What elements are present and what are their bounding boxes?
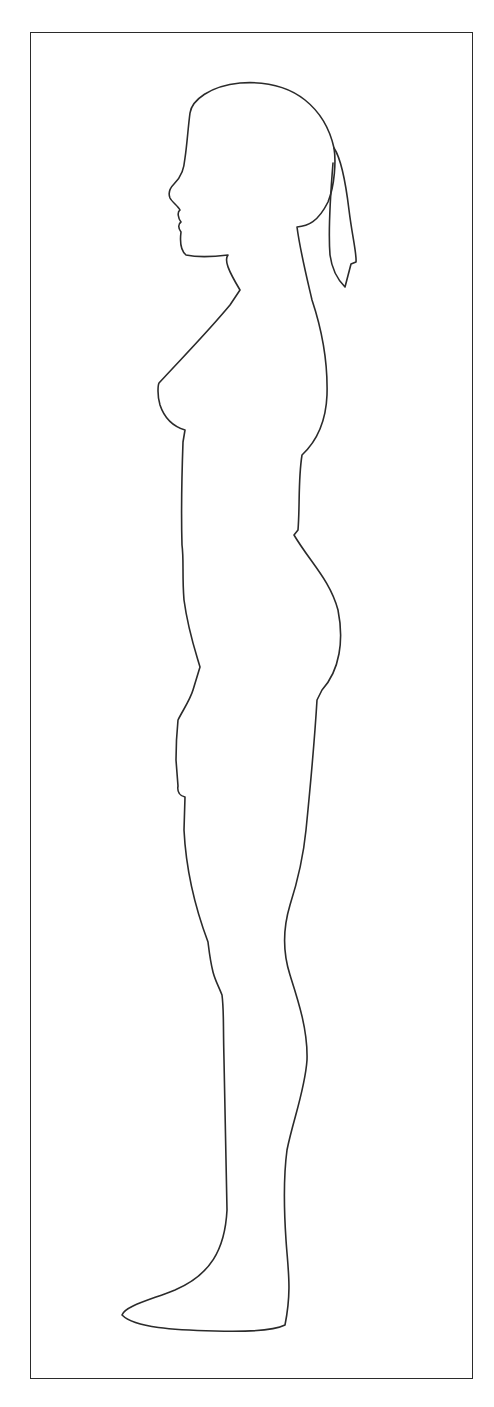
drawing-canvas	[0, 0, 494, 1407]
body-outline-path	[122, 83, 341, 1332]
body-silhouette-outline	[0, 0, 494, 1407]
ponytail-outline-path	[329, 148, 356, 287]
